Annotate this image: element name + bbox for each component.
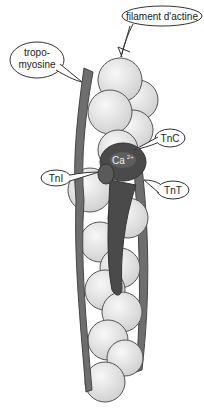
label-actin-filament: filament d'actine bbox=[126, 11, 198, 22]
callout-actin: filament d'actine bbox=[118, 6, 202, 57]
label-tnc: TnC bbox=[161, 133, 180, 144]
callout-tropomyosin: tropo- myosine bbox=[10, 42, 82, 82]
callout-tnt: TnT bbox=[144, 180, 189, 199]
label-tropomyosin-1: tropo- bbox=[24, 47, 50, 58]
label-tni: TnI bbox=[49, 173, 63, 184]
troponin-i bbox=[98, 164, 114, 184]
label-tropomyosin-2: myosine bbox=[18, 59, 56, 70]
diagram-canvas: Ca2+ filament d'actine tropo- myosine Tn… bbox=[0, 0, 204, 418]
label-tnt: TnT bbox=[164, 185, 182, 196]
